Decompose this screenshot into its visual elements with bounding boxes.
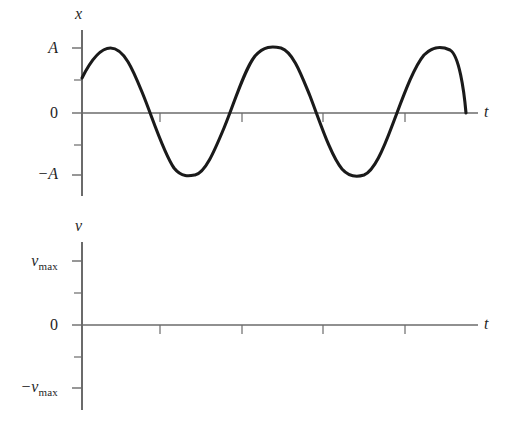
velocity-panel — [72, 242, 478, 410]
displacement-panel — [72, 30, 478, 196]
oscillation-figure: x t A 0 −A v t vmax 0 −vmax — [0, 0, 511, 431]
velocity-x-axis-label: t — [484, 316, 488, 332]
plot-canvas — [0, 0, 511, 431]
displacement-x-axis-label: t — [484, 104, 488, 120]
velocity-ytick-label-vmax-subscript: max — [38, 260, 58, 272]
displacement-ytick-label-amplitude: A — [30, 40, 58, 56]
displacement-y-axis-label: x — [75, 6, 82, 22]
displacement-curve — [82, 47, 466, 176]
velocity-ytick-label-negative-vmax-subscript: max — [38, 386, 58, 398]
velocity-ytick-label-zero: 0 — [30, 317, 58, 333]
displacement-ytick-label-negative-amplitude: −A — [22, 166, 58, 182]
displacement-ytick-label-zero: 0 — [30, 105, 58, 121]
velocity-y-axis-label: v — [75, 218, 82, 234]
velocity-ytick-label-vmax: vmax — [6, 253, 58, 272]
velocity-ytick-label-negative-vmax-base: −v — [21, 378, 39, 395]
velocity-ytick-label-negative-vmax: −vmax — [0, 379, 58, 398]
